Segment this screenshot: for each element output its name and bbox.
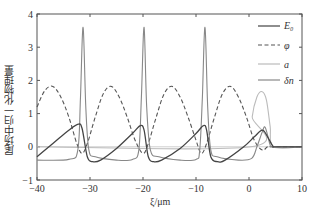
legend-label-dn: δn <box>284 75 294 86</box>
x-axis-label: ξ/μm <box>150 196 170 207</box>
y-tick-label: 1 <box>28 108 33 119</box>
legend-label-phi: φ <box>284 40 290 51</box>
x-tick-label: −10 <box>188 183 204 194</box>
x-tick-label: 10 <box>297 183 307 194</box>
x-tick-label: −20 <box>135 183 151 194</box>
series-line-a <box>37 92 302 149</box>
y-tick-label: −1 <box>22 175 33 186</box>
x-tick-label: 0 <box>247 183 252 194</box>
plot-area: −40−30−20−10010−101234 <box>0 0 313 212</box>
y-axis-label: 尾场中归一化物理量 <box>2 40 16 180</box>
y-tick-label: 0 <box>28 141 33 152</box>
x-tick-label: −30 <box>82 183 98 194</box>
chart-root: −40−30−20−10010−101234 尾场中归一化物理量 ξ/μm E₀… <box>0 0 313 212</box>
y-tick-label: 3 <box>28 42 33 53</box>
series-line-dn <box>37 27 302 160</box>
y-tick-label: 4 <box>28 9 33 20</box>
legend-label-a: a <box>284 59 289 70</box>
legend-label-e0: E₀ <box>284 20 294 31</box>
y-tick-label: 2 <box>28 75 33 86</box>
